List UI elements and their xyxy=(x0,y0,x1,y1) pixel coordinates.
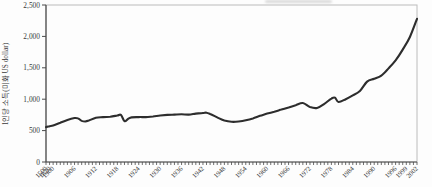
x-tick-label: 1978 xyxy=(319,164,334,179)
x-tick-label: 1930 xyxy=(148,164,163,179)
x-tick-label: 1906 xyxy=(62,164,77,179)
series-layer xyxy=(46,19,417,127)
y-axis-title: 1인당 소득(미화 US dollar) xyxy=(1,42,10,125)
x-tick-label: 1924 xyxy=(126,164,141,179)
income-line-series xyxy=(46,19,417,127)
y-tick-label: 500 xyxy=(29,126,40,135)
plot-frame xyxy=(46,5,417,162)
y-tick-label: 0 xyxy=(36,158,40,167)
x-tick-label: 1990 xyxy=(362,164,377,179)
x-tick-label: 1984 xyxy=(340,164,355,179)
y-tick-label: 2,000 xyxy=(23,32,40,41)
x-tick-label: 1918 xyxy=(105,164,120,179)
x-tick-label: 1966 xyxy=(276,164,291,179)
y-tick-label: 1,500 xyxy=(23,63,40,72)
x-tick-label: 1954 xyxy=(233,164,248,179)
x-tick-label: 1972 xyxy=(298,164,313,179)
chart-canvas: 1인당 소득(미화 US dollar) 05001,0001,5002,000… xyxy=(0,0,432,187)
x-tick-label: 1948 xyxy=(212,164,227,179)
x-tick-label: 1942 xyxy=(191,164,206,179)
x-tick-label: 2002 xyxy=(405,164,420,179)
y-tick-label: 2,500 xyxy=(23,1,40,10)
x-tick-label: 1960 xyxy=(255,164,270,179)
line-chart: 1인당 소득(미화 US dollar) 05001,0001,5002,000… xyxy=(0,0,432,187)
x-tick-label: 1936 xyxy=(169,164,184,179)
x-tick-label: 1912 xyxy=(84,164,99,179)
y-tick-label: 1,000 xyxy=(23,95,40,104)
